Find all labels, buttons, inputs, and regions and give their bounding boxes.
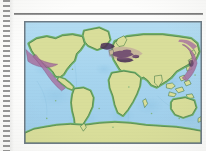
spiral-binding-perforation-icon	[3, 0, 10, 151]
binding-shadow	[10, 0, 14, 151]
world-map-graphic	[25, 22, 201, 143]
world-map-figure	[24, 21, 202, 144]
horizontal-rule-divider	[14, 13, 203, 15]
zone-japan-accent	[189, 60, 194, 67]
scanned-page	[0, 0, 206, 151]
